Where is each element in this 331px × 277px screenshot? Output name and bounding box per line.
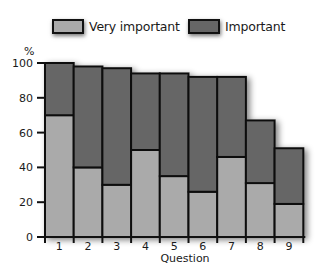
y-tick-label: 60 <box>19 127 33 140</box>
bar-segment-important-q3 <box>102 68 131 185</box>
y-tick-label: 100 <box>12 57 33 70</box>
x-tick-label: 3 <box>113 240 120 253</box>
bar-segment-very-important-q9 <box>275 204 304 237</box>
bar-segment-very-important-q5 <box>160 176 189 237</box>
bar-segment-important-q6 <box>189 77 218 192</box>
bar-segment-important-q5 <box>160 73 189 176</box>
bar-segment-important-q1 <box>45 63 74 115</box>
y-tick-label: 40 <box>19 161 33 174</box>
bar-segment-important-q2 <box>74 66 103 167</box>
bar-segment-very-important-q6 <box>189 192 218 237</box>
stacked-bar-chart: % 123456789020406080100 Question <box>0 0 331 277</box>
x-tick-label: 9 <box>285 240 292 253</box>
bar-segment-important-q7 <box>217 77 246 157</box>
x-tick-label: 4 <box>142 240 149 253</box>
x-tick-label: 8 <box>257 240 264 253</box>
bar-segment-very-important-q8 <box>246 183 275 237</box>
bar-segment-important-q9 <box>275 148 304 204</box>
y-tick-label: 0 <box>26 231 33 244</box>
x-tick-label: 7 <box>228 240 235 253</box>
bar-segment-very-important-q4 <box>131 150 160 237</box>
bar-segment-important-q8 <box>246 120 275 183</box>
bar-segment-very-important-q7 <box>217 157 246 237</box>
x-axis-title: Question <box>160 252 209 265</box>
bar-segment-very-important-q2 <box>74 167 103 237</box>
bar-segment-important-q4 <box>131 73 160 150</box>
bars-group <box>45 63 303 237</box>
x-tick-label: 1 <box>56 240 63 253</box>
bar-segment-very-important-q1 <box>45 115 74 237</box>
y-tick-label: 80 <box>19 92 33 105</box>
bar-segment-very-important-q3 <box>102 185 131 237</box>
y-tick-label: 20 <box>19 196 33 209</box>
x-tick-label: 2 <box>85 240 92 253</box>
